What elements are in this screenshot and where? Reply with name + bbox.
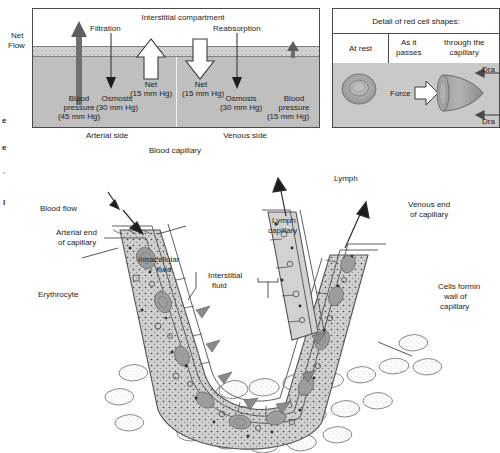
net-filtration-hollow-arrow bbox=[137, 39, 165, 79]
red-cell-panel-title: Detail of red cell shapes: bbox=[333, 9, 499, 34]
blood-pressure-arterial-line3: (45 mm Hg) bbox=[45, 112, 113, 122]
blood-pressure-venous-line3: (15 mm Hg) bbox=[255, 112, 321, 122]
intracellular-fluid-label-line1: Intracellular bbox=[138, 255, 179, 265]
lymph-label: Lymph bbox=[334, 174, 358, 184]
margin-scrap-1: e bbox=[2, 116, 6, 125]
filtration-pointer bbox=[106, 33, 116, 89]
blood-capillary-caption: Blood capillary bbox=[110, 146, 240, 156]
drag-label-top: Dra bbox=[482, 65, 495, 75]
column-header-at-rest: At rest bbox=[333, 33, 389, 64]
cells-forming-wall-label-line3: capillary bbox=[440, 302, 469, 312]
erythrocyte-label: Erythrocyte bbox=[38, 290, 78, 300]
net-reabsorption-hollow-arrow bbox=[186, 39, 214, 79]
venous-side-label: Venous side bbox=[190, 131, 300, 141]
passing-cell-cell: Force Dra Dra bbox=[388, 63, 499, 127]
margin-scrap-2: e bbox=[2, 143, 6, 152]
cells-forming-wall-label-line1: Cells formin bbox=[438, 282, 480, 292]
interstitial-fluid-label-line1: Interstitial bbox=[208, 271, 242, 281]
arterial-end-label-line2: of capillary bbox=[58, 238, 96, 248]
interstitial-compartment-title: Interstitial compartment bbox=[113, 13, 253, 23]
at-rest-cell-cell bbox=[333, 63, 389, 127]
force-label: Force bbox=[390, 89, 410, 99]
filtration-label: Filtration bbox=[90, 24, 121, 34]
column-header-passing: As it passes through the capillary bbox=[388, 33, 499, 64]
reabsorption-label: Reabsorption bbox=[213, 24, 261, 34]
panel-capillary-forces: Interstitial compartment Filtration Reab… bbox=[32, 8, 320, 128]
interstitial-fluid-label-line2: fluid bbox=[212, 281, 227, 291]
drag-label-bottom: Dra bbox=[482, 117, 495, 127]
net-flow-arrow-left bbox=[71, 21, 87, 105]
osmosis-arterial-line2: (30 mm Hg) bbox=[81, 103, 153, 113]
intracellular-fluid-label-line2: fluid bbox=[138, 265, 190, 275]
net-flow-label-line2: Flow bbox=[8, 41, 25, 51]
lymph-capillary-label-line2: capillary bbox=[268, 226, 297, 236]
passing-line2: through the capillary bbox=[430, 38, 499, 58]
arterial-end-label-line1: Arterial end bbox=[56, 228, 97, 238]
venous-end-label-line1: Venous end bbox=[408, 200, 450, 210]
biconcave-rbc-icon bbox=[333, 63, 388, 128]
net-flow-arrow-right bbox=[287, 41, 299, 58]
blood-flow-label: Blood flow bbox=[40, 204, 77, 214]
net-flow-label-line1: Net bbox=[11, 31, 23, 41]
passing-line1: As it passes bbox=[388, 38, 430, 58]
arterial-side-label: Arterial side bbox=[52, 131, 162, 141]
venous-end-label-line2: of capillary bbox=[410, 210, 448, 220]
reabsorption-pointer bbox=[232, 33, 242, 89]
lymph-capillary-label-line1: Lymph bbox=[272, 216, 296, 226]
panel-red-cell-shapes: Detail of red cell shapes: At rest As it… bbox=[332, 8, 500, 128]
cells-forming-wall-label-line2: wall of bbox=[444, 292, 467, 302]
